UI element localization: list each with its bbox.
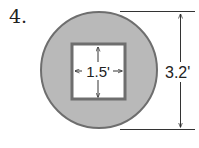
circle-square-diagram: 1.5' 3.2' bbox=[0, 0, 199, 148]
outer-diameter-label: 3.2' bbox=[165, 64, 190, 81]
inner-square-label: 1.5' bbox=[86, 63, 110, 80]
